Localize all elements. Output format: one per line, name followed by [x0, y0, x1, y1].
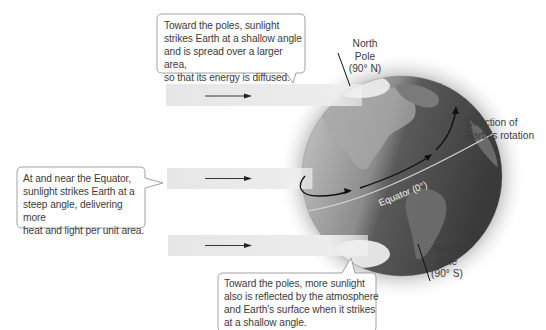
callout-line: strikes Earth at a shallow angle — [164, 32, 306, 45]
callout-left-text: At and near the Equator, sunlight strike… — [23, 172, 148, 237]
callout-line: also is reflected by the atmosphere — [224, 290, 380, 303]
label-line: Earth's rotation — [466, 130, 546, 143]
sunlight-band-bottom — [168, 235, 368, 256]
callout-line: and is spread over a larger area, — [164, 45, 306, 71]
callout-line: and Earth's surface when it strikes — [224, 303, 380, 316]
label-line: (90° S) — [422, 268, 472, 281]
label-line: (90° N) — [340, 63, 390, 76]
callout-line: Toward the poles, sunlight — [164, 19, 306, 32]
callout-top-text: Toward the poles, sunlight strikes Earth… — [164, 19, 306, 84]
label-line: South — [422, 243, 472, 256]
callout-line: heat and light per unit area. — [23, 224, 148, 237]
rotation-label: Direction of Earth's rotation — [466, 117, 546, 142]
callout-line: sunlight strikes Earth at a — [23, 185, 148, 198]
sunlight-band-middle — [167, 168, 312, 189]
label-line: North — [340, 38, 390, 51]
label-line: Pole — [422, 256, 472, 269]
callout-line: steep angle, delivering more — [23, 198, 148, 224]
north-pole-label: North Pole (90° N) — [340, 38, 390, 76]
sunlight-latitude-diagram: Toward the poles, sunlight strikes Earth… — [0, 0, 546, 330]
callout-line: At and near the Equator, — [23, 172, 148, 185]
sunlight-band-top — [166, 84, 362, 106]
south-pole-label: South Pole (90° S) — [422, 243, 472, 281]
label-line: Direction of — [466, 117, 546, 130]
callout-line: Toward the poles, more sunlight — [224, 277, 380, 290]
callout-line: so that its energy is diffused. — [164, 71, 306, 84]
label-line: Pole — [340, 51, 390, 64]
callout-line: at a shallow angle. — [224, 316, 380, 329]
callout-bottom-text: Toward the poles, more sunlight also is … — [224, 277, 380, 329]
